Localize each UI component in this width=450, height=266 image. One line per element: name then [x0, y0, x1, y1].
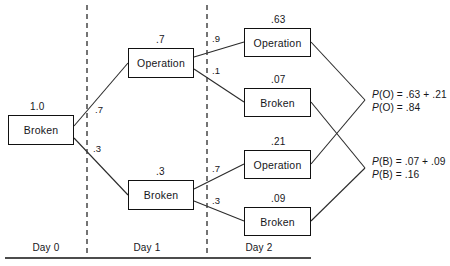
node-label-d1_op: Operation [137, 57, 185, 69]
node-box-d2_br1: Broken [244, 88, 311, 117]
equation-line-sum-broken-1: P(B) = .16 [372, 168, 446, 181]
equation-line-sum-operation-0: P(O) = .63 + .21 [372, 88, 447, 101]
edge-weight-d1op-d2op1: .9 [212, 33, 220, 44]
node-probability-d2_br1: .07 [271, 74, 286, 85]
node-label-d2_br1: Broken [260, 97, 294, 109]
converge-line-d2op2-sumO [311, 100, 365, 164]
node-box-d2_br2: Broken [244, 207, 311, 236]
node-box-d1_br: Broken [128, 180, 194, 210]
node-box-d2_op2: Operation [244, 150, 311, 179]
node-label-root: Broken [24, 124, 58, 136]
node-probability-root: 1.0 [30, 101, 45, 112]
equation-sum-broken: P(B) = .07 + .09P(B) = .16 [372, 155, 446, 181]
node-box-d1_op: Operation [128, 48, 194, 78]
node-probability-d2_op1: .63 [271, 14, 286, 25]
node-box-root: Broken [8, 115, 74, 145]
edge-weight-d1op-d2br1: .1 [212, 65, 220, 76]
converge-line-d2br2-sumB [311, 168, 365, 221]
edge-weight-d1br-d2br2: .3 [212, 195, 220, 206]
equation-line-sum-operation-1: P(O) = .84 [372, 101, 447, 114]
equation-line-sum-broken-0: P(B) = .07 + .09 [372, 155, 446, 168]
node-probability-d2_br2: .09 [271, 193, 286, 204]
node-label-d2_op1: Operation [254, 37, 302, 49]
node-label-d2_br2: Broken [260, 216, 294, 228]
day-label-day-1: Day 1 [122, 242, 172, 253]
day-label-day-2: Day 2 [234, 242, 284, 253]
probability-tree-diagram: BrokenOperationBrokenOperationBrokenOper… [0, 0, 450, 266]
edge-weight-d1br-d2op2: .7 [212, 163, 220, 174]
equation-sum-operation: P(O) = .63 + .21P(O) = .84 [372, 88, 447, 114]
node-label-d1_br: Broken [144, 189, 178, 201]
branch-line-d1op-d2op1 [194, 42, 244, 57]
branch-line-root-d1op [74, 63, 128, 126]
node-label-d2_op2: Operation [254, 159, 302, 171]
converge-line-d2br1-sumB [311, 102, 365, 168]
summation-converge-lines [311, 42, 365, 221]
node-probability-d1_br: .3 [156, 166, 165, 177]
edge-weight-root-d1br: .3 [93, 143, 101, 154]
node-box-d2_op1: Operation [244, 28, 311, 57]
day-label-day-0: Day 0 [21, 242, 71, 253]
edge-weight-root-d1op: .7 [95, 104, 103, 115]
node-probability-d1_op: .7 [156, 34, 165, 45]
converge-line-d2op1-sumO [311, 42, 365, 100]
node-probability-d2_op2: .21 [271, 136, 286, 147]
day-divider-lines [87, 5, 207, 257]
